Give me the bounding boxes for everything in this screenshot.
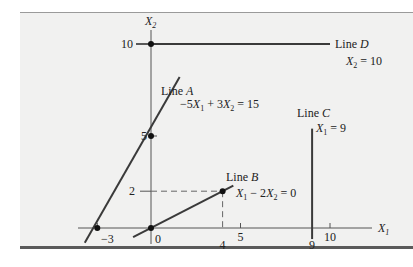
line-c-label: Line C X1 = 9 xyxy=(297,106,346,137)
line-a-name: Line A xyxy=(161,84,194,98)
intercept-point xyxy=(148,41,154,47)
line-b-name: Line B xyxy=(226,170,259,184)
y-axis-label: X2 xyxy=(144,14,156,30)
line-d-name: Line D xyxy=(335,37,369,51)
intercept-point xyxy=(148,225,154,231)
x-axis-label: X1 xyxy=(377,221,389,237)
intercept-point xyxy=(220,188,226,194)
line-c-equation: X1 = 9 xyxy=(315,121,346,137)
y-tick-label: 10 xyxy=(121,37,133,51)
line-b xyxy=(133,186,233,238)
x-tick-label: −3 xyxy=(101,232,114,246)
line-d-label: Line D X2 = 10 xyxy=(335,37,382,70)
y-tick-label: 5 xyxy=(141,129,147,143)
x-tick-label: 9 xyxy=(309,238,315,252)
y-tick-label: 2 xyxy=(129,184,135,198)
line-c-name: Line C xyxy=(297,106,331,120)
x-tick-label: 10 xyxy=(324,230,336,244)
x-tick-label: 5 xyxy=(238,230,244,244)
intercept-point xyxy=(94,225,100,231)
line-b-equation: X1 − 2X2 = 0 xyxy=(235,186,296,202)
line-a-label: Line A −5X1 + 3X2 = 15 xyxy=(161,84,259,113)
line-a xyxy=(85,77,180,243)
x-tick-label: 4 xyxy=(220,238,226,252)
line-a-equation: −5X1 + 3X2 = 15 xyxy=(180,97,259,113)
line-b-label: Line B X1 − 2X2 = 0 xyxy=(226,170,296,202)
x-tick-label: 0 xyxy=(155,232,161,246)
constraint-diagram: −30459102510 X1 X2 Line A −5X1 + 3X2 = 1… xyxy=(0,0,413,267)
line-d-equation: X2 = 10 xyxy=(345,54,382,70)
intercept-point xyxy=(148,133,154,139)
